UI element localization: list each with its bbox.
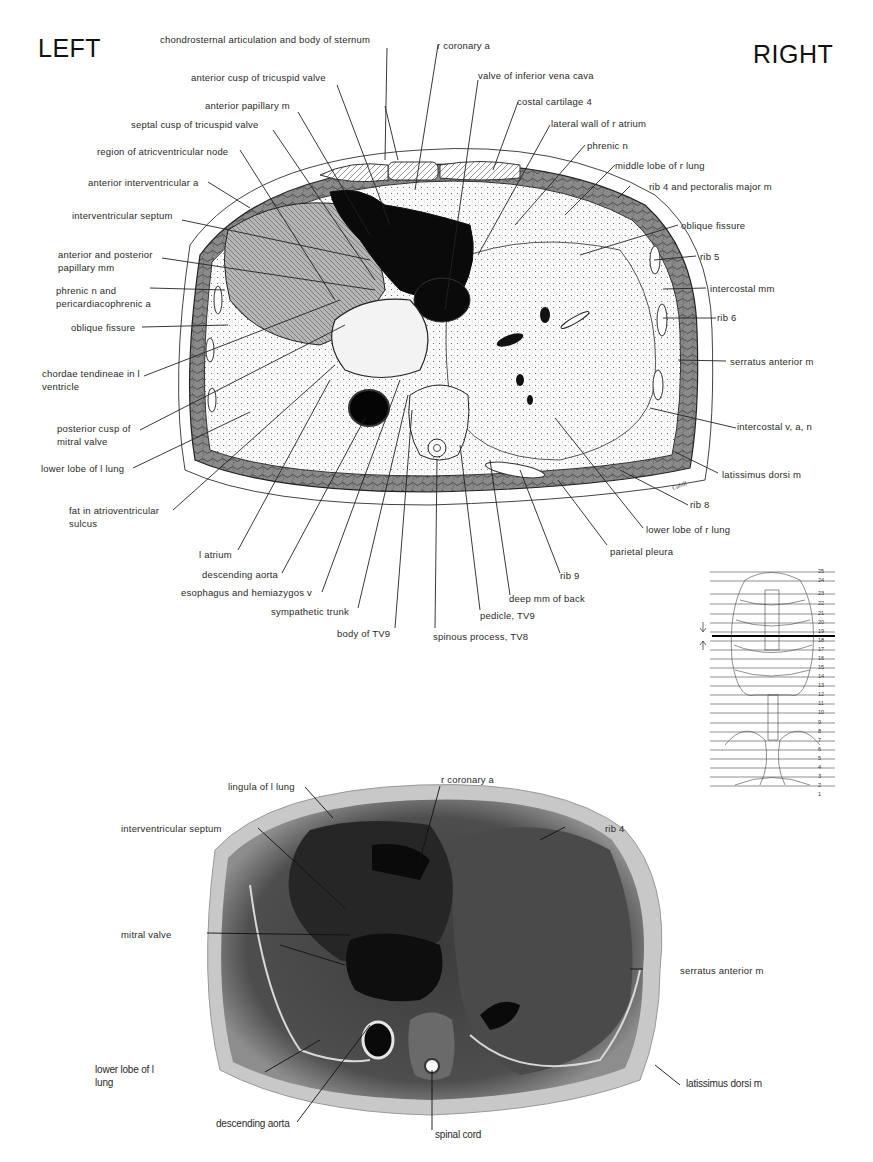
label-rib-9: rib 9 bbox=[560, 569, 579, 582]
label-lateral-wall-r-atrium: lateral wall of r atrium bbox=[551, 117, 646, 130]
label-l-atrium: l atrium bbox=[199, 548, 232, 561]
level-number: 4 bbox=[818, 764, 821, 770]
level-number: 3 bbox=[818, 773, 821, 779]
label-latissimus-dorsi-photo: latissimus dorsi m bbox=[686, 1077, 762, 1090]
label-deep-mm-back: deep mm of back bbox=[509, 592, 585, 605]
label-anterior-cusp-tricuspid: anterior cusp of tricuspid valve bbox=[191, 71, 326, 84]
label-r-coronary-a: r coronary a bbox=[437, 39, 490, 52]
label-anterior-papillary-m: anterior papillary m bbox=[205, 99, 290, 112]
label-lingula-l-lung: lingula of l lung bbox=[228, 780, 295, 793]
label-parietal-pleura: parietal pleura bbox=[610, 545, 673, 558]
level-number: 16 bbox=[818, 655, 824, 661]
cross-section-drawing: Cahill bbox=[0, 0, 873, 1162]
label-septal-cusp-tricuspid: septal cusp of tricuspid valve bbox=[131, 118, 258, 131]
label-body-tv9: body of TV9 bbox=[337, 627, 390, 640]
level-number: 24 bbox=[818, 577, 824, 583]
level-number: 14 bbox=[818, 673, 824, 679]
label-sympathetic-trunk: sympathetic trunk bbox=[271, 605, 349, 618]
label-descending-aorta-drawing: descending aorta bbox=[202, 568, 278, 581]
label-valve-inferior-vena-cava: valve of inferior vena cava bbox=[478, 69, 594, 82]
level-number: 13 bbox=[818, 682, 824, 688]
label-lower-lobe-r-lung: lower lobe of r lung bbox=[646, 523, 730, 536]
label-posterior-cusp-mitral: posterior cusp of mitral valve bbox=[57, 422, 142, 448]
level-number: 23 bbox=[818, 590, 824, 596]
label-rib4-pectoralis: rib 4 and pectoralis major m bbox=[649, 180, 772, 193]
level-number: 8 bbox=[818, 728, 821, 734]
level-number: 17 bbox=[818, 646, 824, 652]
label-lower-lobe-l-lung-photo: lower lobe of l lung bbox=[95, 1063, 170, 1089]
level-number: 7 bbox=[818, 737, 821, 743]
label-rib-6: rib 6 bbox=[717, 311, 736, 324]
label-chordae-tendineae: chordae tendineae in l ventricle bbox=[42, 367, 142, 393]
label-rib-8: rib 8 bbox=[690, 498, 709, 511]
label-intercostal-mm: intercostal mm bbox=[710, 282, 775, 295]
label-latissimus-dorsi: latissimus dorsi m bbox=[722, 468, 801, 481]
label-costal-cartilage-4: costal cartilage 4 bbox=[517, 95, 592, 108]
level-number: 21 bbox=[818, 610, 824, 616]
label-mitral-valve: mitral valve bbox=[121, 928, 171, 941]
label-lower-lobe-l-lung: lower lobe of l lung bbox=[41, 462, 124, 475]
level-number: 9 bbox=[818, 719, 821, 725]
label-interventricular-septum-photo: interventricular septum bbox=[121, 822, 222, 835]
label-serratus-anterior-photo: serratus anterior m bbox=[680, 964, 764, 977]
level-number: 1 bbox=[818, 791, 821, 797]
level-number: 18 bbox=[818, 637, 824, 643]
label-rib-4-photo: rib 4 bbox=[605, 822, 624, 835]
level-number-highlighted: 19 bbox=[818, 628, 824, 634]
label-phrenic-n: phrenic n bbox=[587, 139, 628, 152]
label-intercostal-van: intercostal v, a, n bbox=[737, 420, 812, 433]
level-number: 11 bbox=[818, 700, 824, 706]
label-fat-av-sulcus: fat in atrioventricular sulcus bbox=[69, 504, 179, 530]
level-number: 5 bbox=[818, 755, 821, 761]
cadaver-section-photo bbox=[207, 785, 680, 1130]
level-number: 6 bbox=[818, 746, 821, 752]
label-interventricular-septum: interventricular septum bbox=[72, 209, 173, 222]
label-r-coronary-a-photo: r coronary a bbox=[441, 773, 494, 786]
label-rib-5: rib 5 bbox=[700, 250, 719, 263]
label-region-av-node: region of atricventricular node bbox=[97, 145, 228, 158]
level-number: 2 bbox=[818, 782, 821, 788]
level-number: 10 bbox=[818, 709, 824, 715]
label-oblique-fissure-right: oblique fissure bbox=[681, 219, 745, 232]
label-anterior-posterior-papillary: anterior and posterior papillary mm bbox=[58, 248, 168, 274]
label-serratus-anterior: serratus anterior m bbox=[730, 355, 814, 368]
label-chondrosternal-articulation: chondrosternal articulation and body of … bbox=[160, 33, 370, 46]
level-number: 25 bbox=[818, 568, 824, 574]
label-spinal-cord: spinal cord bbox=[435, 1128, 481, 1141]
label-middle-lobe-r-lung: middle lobe of r lung bbox=[615, 159, 705, 172]
label-spinous-process-tv8: spinous process, TV8 bbox=[433, 630, 528, 643]
label-phrenic-pericardiacophrenic: phrenic n and pericardiacophrenic a bbox=[56, 284, 171, 310]
label-pedicle-tv9: pedicle, TV9 bbox=[480, 609, 535, 622]
level-number: 12 bbox=[818, 691, 824, 697]
skeleton-level-key bbox=[700, 572, 835, 786]
label-esophagus-hemiazygos: esophagus and hemiazygos v bbox=[181, 586, 312, 599]
level-number: 20 bbox=[818, 619, 824, 625]
level-number: 15 bbox=[818, 664, 824, 670]
label-descending-aorta-photo: descending aorta bbox=[216, 1117, 290, 1130]
label-anterior-interventricular-a: anterior interventricular a bbox=[88, 176, 198, 189]
label-oblique-fissure-left: oblique fissure bbox=[71, 321, 135, 334]
level-number: 22 bbox=[818, 600, 824, 606]
